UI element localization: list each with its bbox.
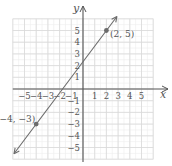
x-tick-label: 2 [104,91,109,101]
x-tick-label: −5 [18,91,31,101]
x-tick-label: −4 [30,91,43,101]
y-tick-label: 3 [75,49,80,59]
coordinate-plane: −5−4−3−2−11234554321−1−2−3−4−5 x y (2, 5… [0,0,172,166]
y-tick-label: 4 [75,37,80,47]
point-label-2-5: (2, 5) [110,29,134,39]
x-axis-label: x [160,88,167,101]
x-tick-label: 4 [127,91,132,101]
y-tick-label: −2 [67,107,80,117]
y-tick-label: −5 [67,143,80,153]
x-tick-label: 1 [92,91,97,101]
x-tick-label: 3 [115,91,120,101]
x-tick-label: −3 [42,91,55,101]
y-tick-label: −4 [67,131,80,141]
y-tick-label: −3 [67,119,80,129]
x-tick-label: 5 [139,91,144,101]
y-axis-label: y [72,2,80,15]
y-tick-label: −1 [67,96,80,106]
point-label-neg4-neg3: (−4, −3) [0,114,35,124]
y-tick-label: 5 [75,26,80,36]
data-point [104,28,109,33]
y-tick-label: 1 [75,72,80,82]
